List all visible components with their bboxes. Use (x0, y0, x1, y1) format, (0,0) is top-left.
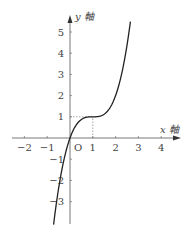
x-tick-label: −2 (17, 142, 32, 153)
y-tick-label: 2 (58, 90, 64, 101)
x-tick-label: 3 (135, 142, 141, 153)
x-axis-label: x 軸 (160, 124, 180, 135)
curve-line (54, 22, 131, 225)
y-tick-label: 3 (58, 69, 64, 80)
y-axis-label: y 軸 (74, 11, 95, 22)
x-tick-label: 1 (90, 142, 96, 153)
y-tick-label: 5 (58, 27, 64, 38)
x-tick-label: 4 (158, 142, 164, 153)
y-tick-label: −1 (49, 154, 64, 165)
y-tick-label: 1 (58, 111, 64, 122)
x-axis-arrow-icon (173, 136, 181, 141)
y-axis-arrow-icon (68, 15, 73, 23)
x-tick-label: −1 (40, 142, 55, 153)
chart: −2−11234−3−2−112345Ox 軸y 軸 (0, 0, 189, 228)
y-tick-label: 4 (58, 48, 64, 59)
plot-area: −2−11234−3−2−112345Ox 軸y 軸 (0, 0, 189, 228)
y-tick-label: −2 (49, 175, 64, 186)
x-tick-label: 2 (112, 142, 118, 153)
origin-label: O (74, 142, 82, 153)
